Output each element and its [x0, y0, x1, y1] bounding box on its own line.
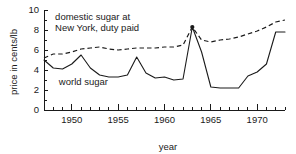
- peak-1963-marker: [190, 25, 194, 29]
- x-tick-label: 1955: [108, 114, 129, 125]
- chart-figure: 0246810 19501955196019651970 domestic su…: [0, 0, 296, 154]
- x-axis-label: year: [159, 141, 177, 152]
- y-tick-label: 2: [34, 84, 39, 95]
- sugar-price-line-chart: 0246810 19501955196019651970 domestic su…: [0, 0, 296, 154]
- y-tick-label: 6: [34, 44, 39, 55]
- y-tick-label: 4: [34, 64, 39, 75]
- x-tick-label: 1950: [61, 114, 82, 125]
- x-tick-label: 1970: [247, 114, 268, 125]
- y-tick-label: 10: [28, 4, 39, 15]
- y-tick-label: 8: [34, 24, 39, 35]
- y-axis-label: price in cents/lb: [8, 29, 19, 95]
- world-series-label: world sugar: [58, 76, 108, 87]
- domestic-series-label: domestic sugar at: [55, 11, 130, 22]
- domestic-series-label-line2: New York, duty paid: [55, 22, 139, 33]
- x-tick-label: 1965: [200, 114, 221, 125]
- data-markers-group: [190, 25, 194, 29]
- y-tick-label: 0: [34, 104, 39, 115]
- x-tick-label: 1960: [154, 114, 175, 125]
